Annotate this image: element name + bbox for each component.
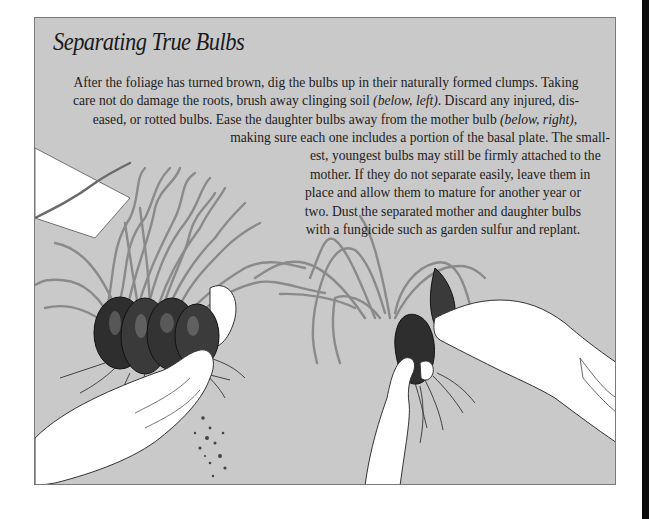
- paragraph-line: with a fungicide such as garden sulfur a…: [293, 221, 593, 239]
- paragraph-line: est, youngest bulbs may still be firmly …: [310, 147, 590, 165]
- paragraph-line: making sure each one includes a portion …: [200, 129, 610, 147]
- right-left-hand: [365, 358, 415, 485]
- paragraph-block-wrap: est, youngest bulbs may still be firmly …: [310, 147, 590, 184]
- paragraph-line: mother. If they do not separate easily, …: [310, 166, 590, 184]
- paragraph-block-wrap: making sure each one includes a portion …: [200, 129, 610, 147]
- paragraph-block-top: After the foliage has turned brown, dig …: [35, 74, 616, 129]
- right-thumb: [420, 361, 433, 380]
- figure-reference: (below, left): [373, 93, 438, 108]
- sidebar-panel: Separating True Bulbs After the foliage …: [34, 17, 616, 485]
- paragraph-line: care not do damage the roots, brush away…: [35, 92, 616, 110]
- figure-reference: (below, right): [500, 112, 574, 127]
- soil-particles-icon: [194, 416, 227, 477]
- paragraph-line: place and allow them to mature for anoth…: [293, 184, 593, 202]
- paragraph-line: After the foliage has turned brown, dig …: [35, 74, 616, 92]
- paragraph-line: two. Dust the separated mother and daugh…: [293, 203, 593, 221]
- adjacent-page-edge: [642, 0, 649, 519]
- paragraph-line: eased, or rotted bulbs. Ease the daughte…: [35, 111, 616, 129]
- page-title: Separating True Bulbs: [53, 28, 244, 56]
- paragraph-block-wrap: place and allow them to mature for anoth…: [293, 184, 593, 239]
- left-hand-front: [35, 350, 213, 485]
